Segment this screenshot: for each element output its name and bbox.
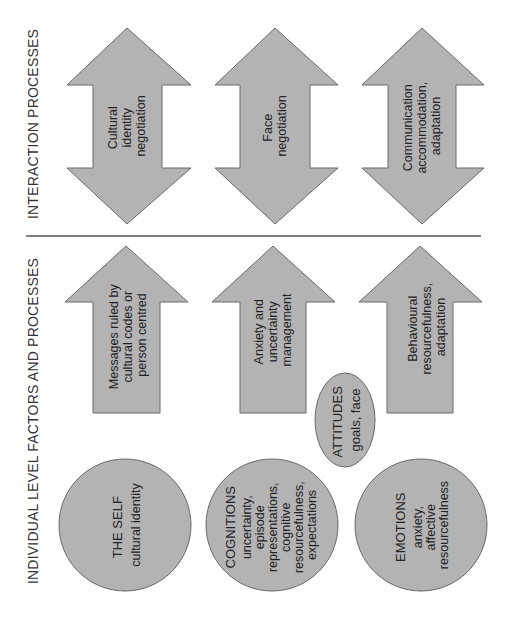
arrow-text-line: person centred bbox=[135, 293, 149, 376]
arrow-text-line: Face bbox=[261, 114, 275, 142]
circle-cognitions: COGNITIONS uncertainty, episode represen… bbox=[206, 459, 338, 591]
circle-body-line: expectations bbox=[305, 490, 319, 560]
svg-text:Messages ruled by cultur: Messages ruled by cultural codes or pers… bbox=[107, 281, 149, 389]
attitudes-title: ATTITUDES bbox=[330, 386, 345, 458]
circle-title: THE SELF bbox=[110, 496, 125, 558]
svg-text:Cultural identity: Cultural identity negotiation bbox=[106, 95, 148, 156]
circle-body-line: affective bbox=[424, 504, 438, 550]
arrow-text-line: adaptation bbox=[429, 97, 443, 155]
circle-body-line: cognitive bbox=[279, 503, 293, 552]
attitudes-body: goals, face bbox=[348, 389, 363, 452]
diagram-canvas: INTERACTION PROCESSES INDIVIDUAL LEVEL F… bbox=[0, 0, 511, 618]
up-arrow-anxiety-uncertainty: Anxiety and uncertainty management bbox=[212, 246, 335, 413]
circle-body-line: resourcefulness, bbox=[292, 481, 306, 573]
arrow-text-line: management bbox=[280, 293, 294, 366]
double-arrow-cultural-identity: Cultural identity negotiation bbox=[67, 28, 191, 224]
svg-text:COGNITIONS uncertainty,: COGNITIONS uncertainty, episode represen… bbox=[221, 477, 319, 573]
section-label-interaction: INTERACTION PROCESSES bbox=[25, 29, 41, 219]
arrow-text-line: Behavioural bbox=[406, 296, 420, 362]
circle-body-line: cultural identity bbox=[129, 483, 143, 567]
arrow-text-line: identity bbox=[120, 107, 134, 147]
circle-title: EMOTIONS bbox=[393, 492, 408, 562]
arrow-text-line: Anxiety and bbox=[252, 299, 266, 364]
arrow-text-line: Cultural bbox=[106, 106, 120, 149]
arrow-text-line: negotiation bbox=[134, 95, 148, 156]
circle-body-line: resourcefulness bbox=[437, 481, 451, 569]
circle-emotions: EMOTIONS anxiety, affective resourcefuln… bbox=[355, 459, 487, 591]
arrow-text-line: resourcefulness, bbox=[420, 283, 434, 375]
arrow-text-line: accommodation, bbox=[415, 82, 429, 174]
arrow-text-line: negotiation bbox=[275, 95, 289, 156]
circle-body-line: episode bbox=[253, 505, 267, 549]
arrow-text-line: uncertainty bbox=[266, 300, 280, 362]
svg-text:Anxiety and uncertainty: Anxiety and uncertainty management bbox=[252, 293, 294, 366]
up-arrow-messages: Messages ruled by cultural codes or pers… bbox=[65, 246, 188, 413]
circle-title: COGNITIONS bbox=[223, 486, 238, 569]
arrow-text-line: Messages ruled by bbox=[107, 284, 121, 390]
circle-the-self: THE SELF cultural identity bbox=[59, 459, 191, 591]
circle-body-line: uncertainty, bbox=[240, 495, 254, 559]
circle-body-line: anxiety, bbox=[411, 506, 425, 548]
arrow-text-line: Communication bbox=[401, 84, 415, 171]
arrow-text-line: cultural codes or bbox=[121, 291, 135, 383]
up-arrow-behavioural: Behavioural resourcefulness, adaptation bbox=[359, 246, 482, 413]
double-arrow-face-negotiation: Face negotiation bbox=[215, 28, 338, 224]
section-label-individual: INDIVIDUAL LEVEL FACTORS AND PROCESSES bbox=[25, 258, 41, 584]
double-arrow-communication: Communication accommodation, adaptation bbox=[362, 28, 484, 224]
circle-body-line: representations, bbox=[266, 482, 280, 572]
attitudes-ellipse: ATTITUDES goals, face bbox=[315, 373, 375, 467]
arrow-text-line: adaptation bbox=[434, 298, 448, 356]
